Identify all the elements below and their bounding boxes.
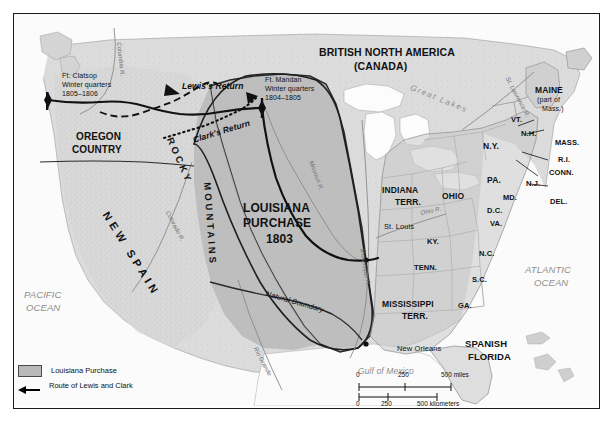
legend-label-route: Route of Lewis and Clark xyxy=(49,381,133,390)
legend-item-louisiana-purchase: Louisiana Purchase xyxy=(18,363,133,378)
legend-swatch-purchase xyxy=(18,365,42,377)
map-legend: Louisiana Purchase Route of Lewis and Cl… xyxy=(18,363,133,393)
legend-item-route: Route of Lewis and Clark xyxy=(18,378,133,393)
scale-km-zero: 0 xyxy=(356,400,360,407)
louisiana-purchase-map: BRITISH NORTH AMERICA (CANADA) Great Lak… xyxy=(0,0,612,421)
st-louis-dot xyxy=(363,257,368,262)
scale-km-end: 500 kilometers xyxy=(417,400,459,407)
scale-miles-zero: 0 xyxy=(356,371,360,378)
scale-km-mid: 250 xyxy=(381,400,392,407)
scale-miles-end: 500 miles xyxy=(441,371,469,378)
legend-label-purchase: Louisiana Purchase xyxy=(51,366,117,375)
new-orleans-dot xyxy=(363,341,368,346)
map-scale-bars: 0 250 500 miles 0 250 500 kilometers xyxy=(355,375,495,413)
legend-arrow-icon xyxy=(18,381,40,391)
scale-miles-mid: 250 xyxy=(398,371,409,378)
map-frame: BRITISH NORTH AMERICA (CANADA) Great Lak… xyxy=(13,13,600,409)
map-graphics xyxy=(14,14,597,406)
